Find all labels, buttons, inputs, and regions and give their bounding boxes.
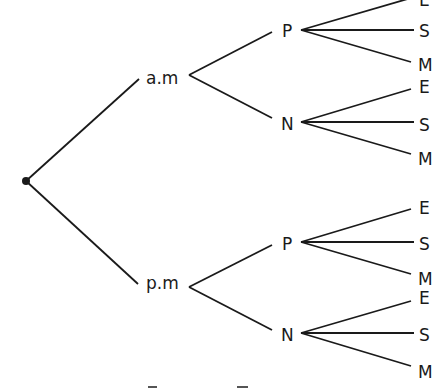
leaf-pm-n-s: S [419,325,430,345]
leaf-am-p-s: S [419,21,430,41]
node-am-n-label: N [281,114,294,134]
node-pm-n-label: N [281,325,294,345]
leaf-pm-p-m: M [418,269,433,289]
edge-pm-n-e [301,301,411,333]
edge-pm-n [189,287,272,330]
edge-am-n-e [301,89,411,122]
node-pm-p-label: P [282,234,292,254]
leaf-am-p-e: E [419,0,430,10]
leaf-am-n-s: S [419,115,430,135]
edge-pm-p-e [301,209,411,242]
leaf-pm-n-e: E [419,288,430,308]
leaf-am-n-e: E [419,77,430,97]
edge-am-n [189,75,272,118]
edge-root-pm [26,181,138,284]
leaf-pm-p-e: E [419,198,430,218]
edge-am-n-m [301,122,411,154]
edge-pm-p [189,245,272,287]
leaf-am-p-m: M [418,55,433,75]
node-pm-label: p.m [146,273,179,293]
edge-am-p [189,32,272,75]
edge-pm-n-m [301,333,411,366]
leaf-pm-n-m: M [418,362,433,382]
edge-pm-p-m [301,242,411,274]
leaf-pm-p-s: S [419,234,430,254]
node-am-p-label: P [282,21,292,41]
edge-root-am [26,79,139,181]
edge-am-p-m [301,30,411,62]
leaf-am-n-m: M [418,149,433,169]
edge-am-p-e [301,0,411,30]
tree-diagram: a.m p.m P N P N E S M E S M E S M E S M [0,0,441,389]
node-am-label: a.m [146,68,178,88]
